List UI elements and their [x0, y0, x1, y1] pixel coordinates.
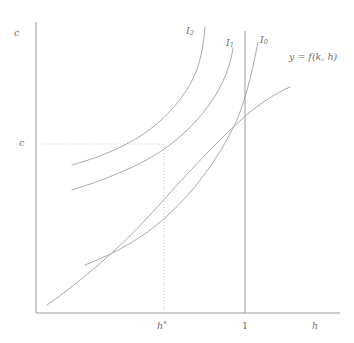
production-function-label: y = f(k, h) [289, 52, 337, 62]
curve-label-i0-subscript: 0 [264, 38, 268, 46]
x-axis-label: h [312, 321, 318, 331]
y-tick-label-c: c [19, 138, 24, 148]
curve-label-i0: I0 [260, 35, 268, 46]
x-tick-label-one: 1 [242, 321, 248, 331]
curve-label-i1: I1 [226, 38, 234, 49]
y-axis-label: c [14, 28, 19, 38]
x-tick-label-h-star: h* [157, 321, 167, 331]
indifference-curve-i0 [85, 42, 258, 265]
indifference-curve-figure: c c h* 1 h I2 I1 I0 y = f(k, h) [0, 0, 354, 343]
x-tick-h-star-superscript: * [163, 320, 166, 328]
production-function-curve [47, 87, 290, 305]
curve-label-i2-subscript: 2 [190, 29, 194, 37]
curve-label-i1-subscript: 1 [230, 41, 234, 49]
curve-label-i2: I2 [186, 26, 194, 37]
